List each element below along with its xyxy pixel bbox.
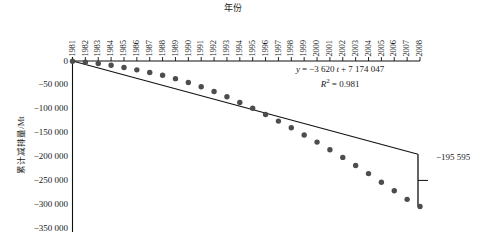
equation-line-2: R2= 0.981 (296, 75, 384, 90)
regression-equation-annotation: y=−3 620t+ 7 174 047 R2= 0.981 (296, 63, 384, 90)
data-point (263, 112, 268, 117)
chart-figure: 年份 1981198219831984198519861987198819891… (0, 0, 492, 246)
data-point (211, 89, 216, 94)
data-point (276, 118, 281, 123)
data-point (96, 61, 101, 66)
bracket-value-label: −195 595 (436, 152, 470, 162)
data-point (237, 100, 242, 105)
equation-slope: −3 620 (309, 64, 334, 74)
data-point (199, 84, 204, 89)
data-point (160, 73, 165, 78)
data-point (340, 155, 345, 160)
data-point (379, 179, 384, 184)
equation-intercept: + 7 174 047 (341, 64, 384, 74)
data-point (70, 59, 75, 64)
data-point (108, 63, 113, 68)
data-point (289, 125, 294, 130)
data-point (134, 67, 139, 72)
data-point (250, 106, 255, 111)
data-point (147, 70, 152, 75)
bracket-annotation (418, 154, 428, 206)
data-point (353, 163, 358, 168)
x-axis-ticks (73, 57, 421, 61)
equation-line-1: y=−3 620t+ 7 174 047 (296, 64, 384, 74)
plot-area (0, 0, 492, 246)
data-point (121, 65, 126, 70)
data-point (173, 76, 178, 81)
data-point (83, 59, 88, 64)
equation-equals: = (300, 64, 309, 74)
data-point (392, 188, 397, 193)
data-point (224, 94, 229, 99)
data-point (186, 80, 191, 85)
data-point (327, 147, 332, 152)
data-point (366, 171, 371, 176)
r-squared-value: = 0.981 (330, 79, 360, 89)
data-point (404, 197, 409, 202)
data-point (417, 204, 422, 209)
data-point (301, 132, 306, 137)
data-point (314, 139, 319, 144)
